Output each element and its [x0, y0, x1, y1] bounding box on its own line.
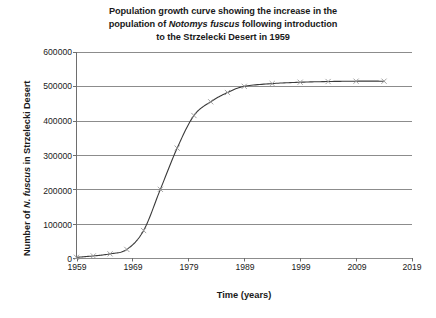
- marker-1971: [141, 228, 146, 233]
- plot-area: [0, 0, 436, 318]
- gridlines: [77, 53, 413, 259]
- marker-1977: [175, 146, 180, 151]
- data-series-line: [77, 81, 385, 257]
- marker-1968: [124, 247, 129, 252]
- marker-1986: [225, 90, 230, 95]
- marker-1983: [208, 99, 213, 104]
- chart-figure: Population growth curve showing the incr…: [0, 0, 436, 318]
- marker-1980: [191, 113, 196, 118]
- axis-ticks: [73, 53, 413, 262]
- data-point-markers: [74, 79, 387, 260]
